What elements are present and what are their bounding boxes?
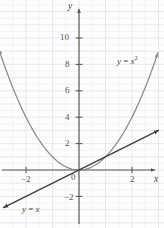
y-tick-label-4: 4 [65,113,70,122]
origin-label: 0 [71,173,76,182]
y-tick-label-8: 8 [65,60,70,69]
parabola-label-exponent: 2 [135,54,138,61]
plot-canvas [0,0,164,228]
y-tick-label-10: 10 [60,33,69,42]
y-tick-label-neg2: −2 [64,193,74,202]
y-tick-label-6: 6 [65,86,70,95]
y-tick-label-2: 2 [65,139,70,148]
graph-figure: y x 0 −2 2 4 6 8 10 −2 2 y = x2 y = x [0,0,164,228]
y-axis-label: y [68,2,72,12]
x-tick-label-2: 2 [130,175,135,184]
parabola-equation-label: y = x2 [117,57,138,66]
line-equation-label: y = x [22,205,40,214]
line-label-var: x [36,204,40,214]
x-axis-label: x [154,175,158,185]
x-tick-label-neg2: −2 [21,175,31,184]
